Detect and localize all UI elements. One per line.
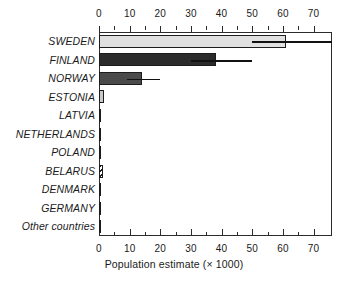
x-tick-label-top-60: 60	[277, 8, 289, 19]
x-tick-label-bottom-40: 40	[216, 243, 228, 254]
chart-row: Other countries	[0, 217, 348, 236]
category-label-germany: GERMANY	[41, 199, 95, 218]
bar-estonia	[99, 90, 104, 103]
category-label-netherlands: NETHERLANDS	[16, 125, 95, 144]
error-bar-norway	[127, 79, 161, 81]
error-bar-finland	[191, 60, 252, 62]
x-minor-tick-top-15	[145, 26, 146, 30]
x-minor-tick-top-25	[176, 26, 177, 30]
x-tick-label-bottom-20: 20	[155, 243, 167, 254]
chart-row: BELARUS	[0, 162, 348, 181]
category-label-finland: FINLAND	[49, 51, 95, 70]
x-tick-label-top-40: 40	[216, 8, 228, 19]
x-tick-label-bottom-50: 50	[247, 243, 259, 254]
x-tick-label-bottom-10: 10	[124, 243, 136, 254]
category-label-estonia: ESTONIA	[48, 88, 95, 107]
x-axis-title: Population estimate (× 1000)	[0, 258, 348, 270]
x-tick-label-bottom-30: 30	[185, 243, 197, 254]
category-label-poland: POLAND	[51, 143, 95, 162]
error-bar-sweden	[252, 41, 332, 43]
category-label-sweden: SWEDEN	[48, 32, 95, 51]
category-label-belarus: BELARUS	[45, 162, 95, 181]
x-tick-label-bottom-60: 60	[277, 243, 289, 254]
chart-row: DENMARK	[0, 180, 348, 199]
category-label-latvia: LATVIA	[59, 106, 95, 125]
chart-row: POLAND	[0, 143, 348, 162]
bar-denmark	[99, 183, 101, 196]
x-minor-tick-top-35	[206, 26, 207, 30]
horizontal-bar-chart: 001010202030304040505060607070SWEDENFINL…	[0, 0, 348, 285]
chart-row: NORWAY	[0, 69, 348, 88]
chart-row: ESTONIA	[0, 88, 348, 107]
x-tick-label-top-30: 30	[185, 8, 197, 19]
x-minor-tick-top-45	[237, 26, 238, 30]
x-tick-label-top-70: 70	[308, 8, 320, 19]
chart-row: LATVIA	[0, 106, 348, 125]
bar-latvia	[99, 109, 101, 122]
category-label-norway: NORWAY	[48, 69, 95, 88]
bar-belarus	[99, 165, 103, 178]
bar-netherlands	[99, 128, 101, 141]
bar-poland	[99, 146, 101, 159]
chart-row: GERMANY	[0, 199, 348, 218]
x-tick-label-top-0: 0	[96, 8, 102, 19]
bar-other-countries	[99, 220, 101, 233]
x-tick-label-bottom-70: 70	[308, 243, 320, 254]
category-label-denmark: DENMARK	[42, 180, 95, 199]
category-label-other-countries: Other countries	[22, 217, 95, 236]
x-tick-label-bottom-0: 0	[96, 243, 102, 254]
x-tick-label-top-10: 10	[124, 8, 136, 19]
x-minor-tick-top-65	[298, 26, 299, 30]
x-tick-label-top-20: 20	[155, 8, 167, 19]
x-minor-tick-top-5	[114, 26, 115, 30]
x-tick-label-top-50: 50	[247, 8, 259, 19]
bar-germany	[99, 202, 101, 215]
chart-row: NETHERLANDS	[0, 125, 348, 144]
x-minor-tick-top-55	[268, 26, 269, 30]
